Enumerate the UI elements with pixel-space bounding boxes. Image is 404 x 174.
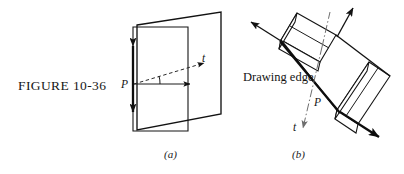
figure-illustration: P t (0, 0, 404, 174)
panel-b-sublabel: (b) (292, 148, 305, 160)
panel-b-point-label: P (313, 96, 321, 108)
figure-root: FIGURE 10-36 (0, 0, 404, 174)
panel-a-graphic: P t (120, 12, 221, 131)
panel-b-tangent-label: t (293, 121, 297, 133)
drawing-edge-label: Drawing edge (243, 70, 314, 84)
panel-b-graphic: Drawing edge P t (243, 8, 390, 137)
panel-a-sublabel: (a) (164, 148, 177, 160)
lower-straightedge-block (335, 62, 390, 133)
axis-arrow-upper-right (337, 8, 353, 37)
panel-a-point-label: P (120, 78, 128, 90)
upper-normal-arrow (251, 22, 281, 41)
sheet-upper-edge (336, 35, 390, 76)
cutting-plane-rectangle (133, 27, 188, 131)
panel-a-tangent-label: t (202, 52, 206, 64)
